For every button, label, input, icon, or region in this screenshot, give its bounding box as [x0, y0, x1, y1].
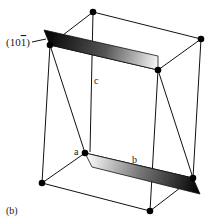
- plane-top-strip: [44, 30, 158, 70]
- axis-label-c: c: [94, 75, 99, 86]
- axis-label-a: a: [74, 146, 79, 157]
- panel-label: (b): [6, 205, 18, 217]
- plane-bottom-strip: [85, 153, 200, 194]
- crystal-lattice-diagram: (101) c a b (b): [0, 0, 207, 223]
- plane-label-pointer: [32, 39, 46, 42]
- plane-miller-label: (101): [6, 36, 30, 49]
- axis-label-b: b: [132, 154, 137, 165]
